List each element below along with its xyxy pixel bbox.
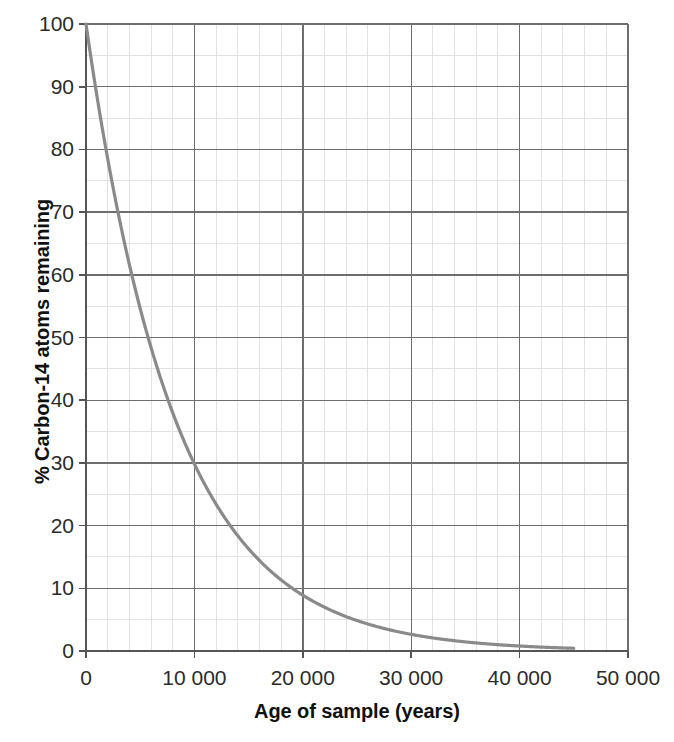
carbon14-decay-figure: 0102030405060708090100 010 00020 00030 0… <box>0 0 674 742</box>
x-tick-label: 10 000 <box>134 667 254 688</box>
x-tick-label: 0 <box>26 667 146 688</box>
plot-area <box>86 24 628 651</box>
decay-curve <box>86 24 628 651</box>
carbon14-decay-line <box>86 24 574 648</box>
x-tick-label: 40 000 <box>460 667 580 688</box>
x-tick-label: 50 000 <box>568 667 674 688</box>
x-axis-title: Age of sample (years) <box>86 700 628 723</box>
y-axis-title: % Carbon-14 atoms remaining <box>31 32 54 652</box>
x-tick-label: 30 000 <box>351 667 471 688</box>
x-tick-label: 20 000 <box>243 667 363 688</box>
